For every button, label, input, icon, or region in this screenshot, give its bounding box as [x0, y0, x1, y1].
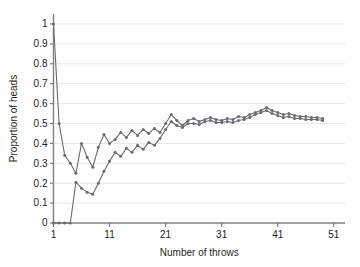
series-2-point-27	[198, 123, 201, 126]
series-1-point-1	[52, 22, 55, 25]
series-1-point-13	[119, 131, 122, 134]
y-tick-label-0.8: 0.8	[34, 58, 48, 69]
series-2-point-20	[159, 137, 162, 140]
series-1-point-16	[136, 134, 139, 137]
series-2-point-41	[276, 114, 279, 117]
series-1-point-10	[102, 133, 105, 136]
series-2-point-43	[287, 115, 290, 118]
series-2-point-48	[315, 118, 318, 121]
series-1-point-23	[175, 119, 178, 122]
series-2-point-14	[125, 147, 128, 150]
y-tick-label-0.4: 0.4	[34, 138, 48, 149]
series-2-point-44	[293, 117, 296, 120]
series-2-point-21	[164, 128, 167, 131]
series-1-point-11	[108, 142, 111, 145]
series-1-point-20	[159, 131, 162, 134]
x-tick-label-11: 11	[104, 229, 115, 240]
series-1-point-21	[164, 122, 167, 125]
series-2-point-9	[97, 182, 100, 185]
series-2-point-36	[248, 116, 251, 119]
series-2-point-11	[108, 160, 111, 163]
series-2-point-16	[136, 144, 139, 147]
series-2-point-29	[209, 119, 212, 122]
x-tick-label-51: 51	[328, 229, 340, 240]
series-1-point-7	[86, 156, 89, 159]
series-2-point-5	[74, 181, 77, 184]
series-2-point-6	[80, 187, 83, 190]
series-2-point-37	[254, 113, 257, 116]
series-1-point-4	[69, 162, 72, 165]
series-2-point-17	[142, 148, 145, 151]
y-tick-label-0.9: 0.9	[34, 38, 48, 49]
series-1-point-43	[287, 112, 290, 115]
series-1-point-2	[58, 122, 61, 125]
series-1-point-15	[130, 129, 133, 132]
series-1-point-14	[125, 136, 128, 139]
series-1-point-22	[170, 113, 173, 116]
series-1-point-40	[271, 109, 274, 112]
series-2-point-45	[299, 117, 302, 120]
series-line-1	[54, 24, 323, 173]
series-2-point-25	[187, 122, 190, 125]
y-tick-label-0.5: 0.5	[34, 118, 48, 129]
series-1-point-26	[192, 117, 195, 120]
series-1-point-12	[114, 138, 117, 141]
series-1-point-9	[97, 146, 100, 149]
series-2-point-15	[130, 151, 133, 154]
series-1-point-25	[187, 119, 190, 122]
series-2-point-33	[231, 121, 234, 124]
x-tick-label-31: 31	[216, 229, 228, 240]
series-2-point-26	[192, 122, 195, 125]
y-tick-label-1: 1	[42, 18, 48, 29]
series-2-point-4	[69, 222, 72, 225]
x-tick-label-1: 1	[51, 229, 57, 240]
series-1-point-36	[248, 113, 251, 116]
series-2-point-10	[102, 170, 105, 173]
x-axis-title: Number of throws	[160, 247, 239, 258]
series-2-point-28	[203, 120, 206, 123]
series-2-point-18	[147, 141, 150, 144]
series-2-point-35	[243, 118, 246, 121]
series-1-point-3	[63, 154, 66, 157]
series-2-point-3	[63, 222, 66, 225]
series-2-point-32	[226, 120, 229, 123]
series-2-point-42	[282, 116, 285, 119]
y-axis-title: Proportion of heads	[8, 75, 19, 162]
series-1-point-41	[276, 111, 279, 114]
y-tick-label-0.2: 0.2	[34, 178, 48, 189]
series-1-point-6	[80, 142, 83, 145]
series-2-point-7	[86, 191, 89, 194]
series-2-point-24	[181, 126, 184, 129]
y-tick-label-0.1: 0.1	[34, 197, 48, 208]
y-tick-label-0.6: 0.6	[34, 98, 48, 109]
series-2-point-40	[271, 112, 274, 115]
series-1-point-42	[282, 113, 285, 116]
coin-flip-proportion-chart: 00.10.20.30.40.50.60.70.80.9111121314151…	[0, 0, 360, 267]
series-2-point-1	[52, 222, 55, 225]
series-1-point-34	[237, 115, 240, 118]
series-2-point-46	[304, 118, 307, 121]
series-1-point-46	[304, 115, 307, 118]
y-tick-label-0: 0	[42, 217, 48, 228]
series-1-point-8	[91, 166, 94, 169]
series-1-point-32	[226, 117, 229, 120]
series-2-point-34	[237, 119, 240, 122]
series-1-point-18	[147, 132, 150, 135]
series-2-point-47	[310, 118, 313, 121]
series-1-point-44	[293, 114, 296, 117]
series-1-point-33	[231, 118, 234, 121]
series-1-point-30	[215, 118, 218, 121]
figure-container: 00.10.20.30.40.50.60.70.80.9111121314151…	[0, 0, 360, 267]
series-2-point-19	[153, 144, 156, 147]
series-1-point-29	[209, 116, 212, 119]
series-2-point-39	[265, 109, 268, 112]
series-2-point-23	[175, 124, 178, 127]
series-2-point-49	[321, 119, 324, 122]
x-tick-label-21: 21	[160, 229, 172, 240]
series-2-point-13	[119, 155, 122, 158]
series-2-point-38	[259, 111, 262, 114]
series-2-point-30	[215, 121, 218, 124]
series-1-point-39	[265, 106, 268, 109]
series-1-point-17	[142, 128, 145, 131]
series-2-point-2	[58, 222, 61, 225]
